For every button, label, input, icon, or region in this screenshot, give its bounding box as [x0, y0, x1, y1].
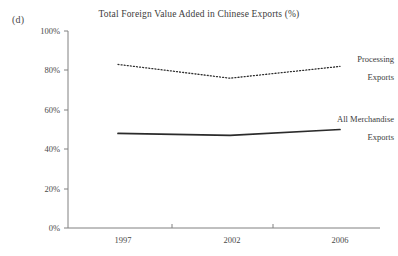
y-tick-label-80: 80%	[44, 65, 60, 75]
y-tick-label-40: 40%	[44, 144, 60, 154]
y-tick-label-20: 20%	[44, 184, 60, 194]
series-label-all-merchandise-exports-line1: All Merchandise	[337, 114, 394, 124]
x-tick-label-2002: 2002	[224, 235, 241, 245]
series-line-all-merchandise-exports	[118, 130, 340, 136]
series-label-processing-exports-line2: Exports	[368, 72, 394, 82]
y-tick-marks	[64, 31, 68, 228]
x-tick-label-1997: 1997	[115, 235, 132, 245]
series-label-processing-exports-line1: Processing	[357, 54, 395, 64]
y-tick-label-60: 60%	[44, 105, 60, 115]
series-line-processing-exports	[118, 64, 340, 78]
x-tick-label-2006: 2006	[332, 235, 349, 245]
chart-plot-area: 100% 80% 60% 40% 20% 0% 1997 2002 2006 P…	[0, 0, 398, 256]
y-tick-label-100: 100%	[40, 26, 60, 36]
figure-panel: (d) Total Foreign Value Added in Chinese…	[0, 0, 398, 256]
x-tick-marks	[172, 224, 273, 228]
y-tick-label-0: 0%	[49, 223, 60, 233]
series-label-all-merchandise-exports-line2: Exports	[368, 132, 394, 142]
